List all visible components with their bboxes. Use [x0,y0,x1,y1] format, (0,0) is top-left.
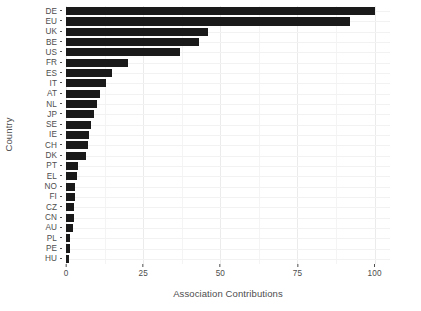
y-tick-au: AU [45,223,62,233]
y-tick-pl: PL [47,233,62,243]
gridline-horizontal [66,176,390,177]
y-tick-uk: UK [45,27,62,37]
bar-es [66,69,112,77]
y-tick-label-text: PT [46,161,57,170]
y-tick-mark [60,237,63,238]
y-tick-label-text: EL [47,172,57,181]
y-tick-label-text: FI [50,192,57,201]
gridline-horizontal [66,135,390,136]
y-tick-label-text: SE [46,120,57,129]
y-tick-label-text: EU [45,17,57,26]
y-tick-cz: CZ [46,202,62,212]
y-tick-mark [60,113,63,114]
y-tick-mark [60,93,63,94]
y-tick-fi: FI [50,192,62,202]
x-tick-100: 100 [368,264,382,278]
bar-pe [66,244,70,252]
y-tick-label-text: AT [47,89,57,98]
x-tick-mark [374,264,375,267]
x-axis-tick-labels: 0255075100 [66,264,390,284]
gridline-horizontal [66,238,390,239]
y-tick-at: AT [47,89,62,99]
bar-chart-figure: Country DEEUUKBEUSFRESITATNLJPSEIECHDKPT… [0,0,421,311]
y-tick-label-text: FR [46,58,57,67]
x-tick-label-text: 75 [293,269,302,278]
y-axis-tick-labels: DEEUUKBEUSFRESITATNLJPSEIECHDKPTELNOFICZ… [18,6,62,264]
y-tick-mark [60,72,63,73]
gridline-horizontal [66,156,390,157]
y-tick-se: SE [46,120,62,130]
y-tick-mark [60,186,63,187]
y-tick-nl: NL [46,99,62,109]
plot-panel [66,6,390,264]
x-tick-label-text: 100 [368,269,382,278]
gridline-horizontal [66,94,390,95]
y-tick-no: NO [45,182,62,192]
y-tick-el: EL [47,171,62,181]
gridline-horizontal [66,218,390,219]
x-tick-75: 75 [293,264,302,278]
y-axis-title: Country [0,0,18,268]
bar-cn [66,214,74,222]
y-tick-label-text: JP [47,110,57,119]
x-tick-mark [297,264,298,267]
y-tick-mark [60,175,63,176]
y-tick-jp: JP [47,110,62,120]
bar-au [66,224,73,232]
y-tick-mark [60,144,63,145]
y-tick-mark [60,206,63,207]
bar-eu [66,17,350,25]
y-tick-mark [60,62,63,63]
y-tick-label-text: CN [45,213,57,222]
gridline-horizontal [66,197,390,198]
y-tick-mark [60,31,63,32]
y-tick-it: IT [50,79,62,89]
bar-cz [66,203,74,211]
gridline-horizontal [66,73,390,74]
y-tick-pt: PT [46,161,62,171]
y-tick-de: DE [45,6,62,16]
gridline-horizontal [66,249,390,250]
y-tick-label-text: PE [46,244,57,253]
y-tick-label-text: NL [46,100,57,109]
x-tick-mark [143,264,144,267]
x-axis-title: Association Contributions [66,288,390,299]
gridline-horizontal [66,83,390,84]
y-tick-mark [60,227,63,228]
y-tick-ch: CH [45,140,62,150]
bar-at [66,90,100,98]
y-tick-mark [60,10,63,11]
y-tick-us: US [45,48,62,58]
y-tick-mark [60,51,63,52]
x-tick-mark [66,264,67,267]
bar-nl [66,100,97,108]
gridline-horizontal [66,259,390,260]
bar-uk [66,28,208,36]
y-tick-dk: DK [45,151,62,161]
y-tick-mark [60,258,63,259]
y-tick-label-text: IT [50,79,57,88]
x-tick-mark [220,264,221,267]
gridline-horizontal [66,104,390,105]
y-tick-label-text: BE [46,38,57,47]
y-tick-mark [60,103,63,104]
y-tick-mark [60,217,63,218]
y-tick-hu: HU [45,254,62,264]
bar-de [66,7,375,15]
y-tick-cn: CN [45,213,62,223]
y-tick-label-text: AU [45,223,57,232]
y-tick-label-text: DK [45,151,57,160]
y-tick-mark [60,196,63,197]
bar-fi [66,193,75,201]
y-tick-mark [60,124,63,125]
y-axis-title-text: Country [4,117,15,151]
y-tick-label-text: NO [45,182,57,191]
y-tick-eu: EU [45,17,62,27]
bar-ch [66,141,88,149]
x-tick-label-text: 0 [64,269,69,278]
gridline-horizontal [66,228,390,229]
y-tick-label-text: HU [45,254,57,263]
y-tick-mark [60,134,63,135]
y-tick-label-text: US [45,48,57,57]
y-tick-mark [60,20,63,21]
